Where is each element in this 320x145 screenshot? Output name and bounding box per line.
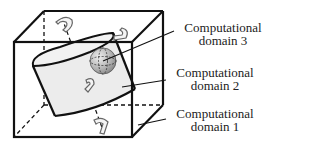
label-domain-1-line2: domain 1 <box>170 120 260 133</box>
cylinder-domain-2 <box>33 33 135 116</box>
rotation-arrow-icon <box>114 28 127 40</box>
label-domain-2-line2: domain 2 <box>170 79 260 92</box>
label-domain-2: Computational domain 2 <box>170 66 260 92</box>
label-domain-3: Computational domain 3 <box>178 21 268 47</box>
label-domain-3-line2: domain 3 <box>178 34 268 47</box>
label-domain-1: Computational domain 1 <box>170 107 260 133</box>
